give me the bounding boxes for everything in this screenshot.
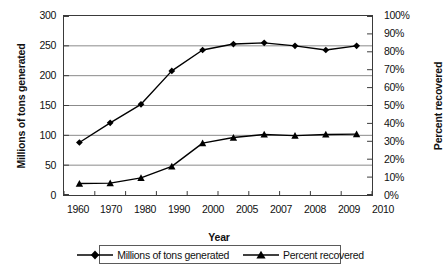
y-right-tick-60: 60% — [384, 81, 422, 93]
data-point — [292, 42, 299, 49]
series-1 — [76, 39, 360, 145]
data-point — [230, 41, 237, 48]
x-axis-ticks — [64, 191, 372, 195]
y-right-tick-100: 100% — [384, 9, 422, 21]
y-axis-left-ticks — [64, 16, 69, 194]
data-point — [107, 119, 114, 126]
data-point — [261, 39, 268, 46]
y-axis-right-title: Percent recovered — [432, 16, 444, 196]
legend-label-tons: Millions of tons generated — [117, 249, 229, 261]
y-right-tick-80: 80% — [384, 45, 422, 57]
data-point — [322, 47, 329, 54]
gridlines — [64, 46, 372, 165]
y-right-tick-90: 90% — [384, 27, 422, 39]
y-axis-right-ticks — [367, 16, 372, 194]
y-left-tick-100: 100 — [22, 129, 56, 141]
y-left-tick-0: 0 — [22, 189, 56, 201]
y-left-tick-200: 200 — [22, 69, 56, 81]
y-right-tick-20: 20% — [384, 153, 422, 165]
data-point — [76, 139, 83, 146]
chart-legend: Millions of tons generated Percent recov… — [99, 245, 341, 264]
legend-item-tons: Millions of tons generated — [76, 249, 229, 261]
y-right-tick-70: 70% — [384, 63, 422, 75]
y-right-tick-40: 40% — [384, 117, 422, 129]
x-tick-2010: 2010 — [363, 203, 403, 215]
y-right-tick-50: 50% — [384, 99, 422, 111]
legend-item-percent: Percent recovered — [242, 249, 364, 261]
data-point — [353, 42, 360, 49]
series-2 — [76, 130, 361, 186]
x-axis-title: Year — [0, 231, 438, 243]
plot-svg — [64, 16, 372, 195]
diamond-marker-icon — [76, 249, 114, 261]
y-right-tick-30: 30% — [384, 135, 422, 147]
y-right-tick-0: 0% — [384, 189, 422, 201]
series-layer — [76, 39, 361, 186]
y-left-tick-150: 150 — [22, 99, 56, 111]
plot-area — [63, 15, 373, 196]
legend-label-percent: Percent recovered — [283, 249, 364, 261]
y-left-tick-50: 50 — [22, 159, 56, 171]
triangle-marker-icon — [242, 249, 280, 261]
y-right-tick-10: 10% — [384, 171, 422, 183]
y-left-tick-250: 250 — [22, 39, 56, 51]
y-left-tick-300: 300 — [22, 9, 56, 21]
